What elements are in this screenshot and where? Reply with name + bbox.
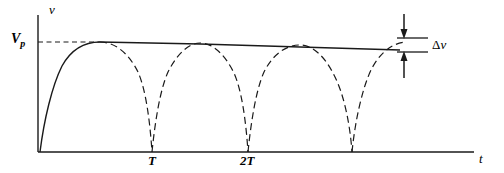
waveform-first-halfcycle-solid	[40, 42, 100, 152]
peak-envelope-line	[100, 42, 400, 50]
waveform-arc2-dashed	[152, 43, 248, 152]
ripple-annotation-label: Δv	[432, 38, 446, 51]
waveform-arc1-falling-dashed	[100, 42, 152, 152]
vp-marker-label: Vp	[11, 32, 25, 49]
y-axis-label: v	[49, 3, 55, 16]
x-tick-label-t: T	[148, 154, 156, 167]
x-tick-label-2t: 2T	[240, 154, 254, 167]
vp-marker-subscript: p	[20, 38, 25, 49]
x-axis-label: t	[479, 152, 483, 165]
vp-marker-main: V	[11, 31, 20, 46]
waveform-arc3-dashed	[248, 45, 352, 152]
rectifier-ripple-figure: v Vp T 2T t Δv	[0, 0, 504, 173]
figure-canvas	[0, 0, 504, 173]
ripple-variable: v	[440, 37, 446, 52]
waveform-arc4-rising-dashed	[352, 42, 406, 152]
